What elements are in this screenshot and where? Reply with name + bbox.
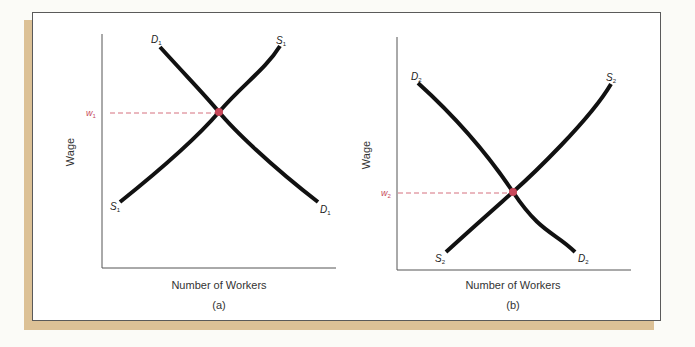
- panel-b-equilibrium-point: [509, 188, 517, 196]
- panel-b-x-axis-title: Number of Workers: [465, 279, 561, 291]
- panel-b-wage-label: w2: [381, 188, 392, 199]
- panel-b-y-axis-title: Wage: [360, 141, 372, 169]
- panel-b-supply-label-bottom: S2: [435, 253, 446, 265]
- panel-b-demand-label-bottom: D2: [578, 253, 589, 265]
- panel-b: w2 D2 S2 S2 D2 Wage Number of Workers (b…: [360, 37, 631, 311]
- panel-a-demand-label-bottom: D1: [320, 204, 331, 216]
- panel-b-demand-curve: [418, 83, 575, 252]
- panel-a-demand-curve: [160, 47, 318, 202]
- panel-a-supply-curve: [120, 46, 280, 202]
- panel-a-equilibrium-point: [215, 108, 223, 116]
- panel-a-x-axis-title: Number of Workers: [171, 279, 267, 291]
- panel-b-caption: (b): [506, 299, 519, 311]
- panel-a-wage-label: w1: [86, 108, 97, 119]
- panel-b-supply-label-top: S2: [606, 72, 617, 84]
- panel-b-demand-label-top: D2: [411, 71, 422, 83]
- panel-a-supply-label-bottom: S1: [110, 201, 121, 213]
- panel-a: w1 D1 S1 S1 D1 Wage Number of Workers (a…: [64, 34, 336, 311]
- panel-a-caption: (a): [212, 299, 225, 311]
- panel-a-supply-label-top: S1: [276, 35, 287, 47]
- panel-b-supply-curve: [446, 84, 611, 252]
- panel-a-demand-label-top: D1: [151, 34, 162, 46]
- panel-a-y-axis-title: Wage: [64, 138, 76, 166]
- figure: w1 D1 S1 S1 D1 Wage Number of Workers (a…: [0, 0, 695, 347]
